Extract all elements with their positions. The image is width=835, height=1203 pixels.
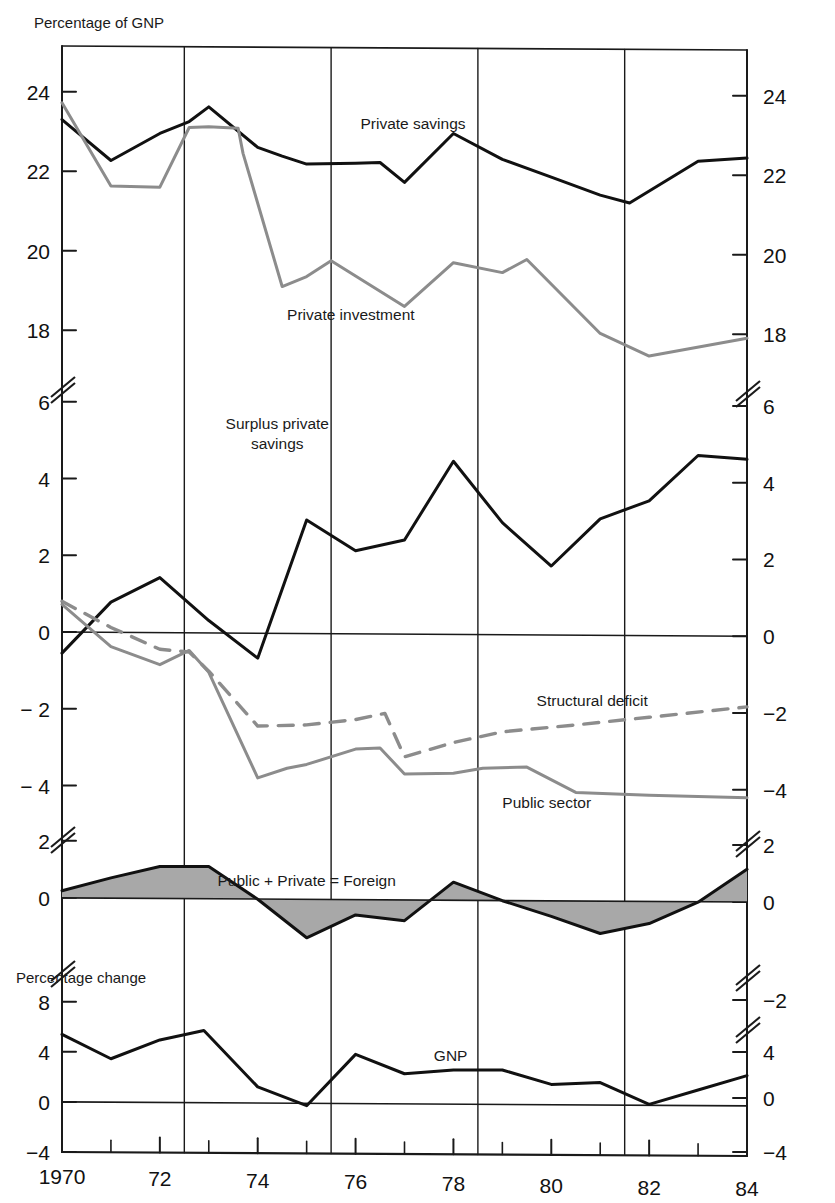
ytick-right-p1-20: 20 xyxy=(763,244,786,267)
ytick-right-p3-2: 2 xyxy=(763,834,775,857)
ytick-left-p1-22: 22 xyxy=(27,160,50,183)
ytick-right-p1-22: 22 xyxy=(763,164,786,187)
chart-svg: 2424222220201818Percentage of GNPPrivate… xyxy=(0,0,835,1203)
ytick-right-p1-24: 24 xyxy=(763,85,787,108)
ytick-right-p3-0: 0 xyxy=(763,891,775,914)
ytick-left-p3-0: 0 xyxy=(38,887,50,910)
label-foreign-balance: Public + Private = Foreign xyxy=(217,872,395,889)
series-surplus-private-savings xyxy=(62,456,747,659)
label-surplus-savings-line1: Surplus private xyxy=(226,415,329,432)
ytick-left-p2-0: 0 xyxy=(38,621,50,644)
ytick-right-p4-0: −2 xyxy=(763,989,787,1012)
ytick-left-p4-8: 8 xyxy=(38,991,50,1014)
label-surplus-savings-line2: savings xyxy=(251,435,304,452)
ytick-left-p4-0: 0 xyxy=(38,1091,50,1114)
xtick-label-1976: 76 xyxy=(344,1170,367,1193)
label-structural-deficit: Structural deficit xyxy=(537,692,649,709)
ytick-right-p2--2: −2 xyxy=(763,702,787,725)
zero-line-p2 xyxy=(62,632,747,636)
xtick-label-1984: 84 xyxy=(735,1177,759,1200)
ytick-right-p4-1: 4 xyxy=(763,1041,775,1064)
ytick-left-p4-4: 4 xyxy=(38,1041,50,1064)
ytick-left-p3-2: 2 xyxy=(38,830,50,853)
ytick-left-p2-6: 6 xyxy=(38,391,50,414)
ytick-right-p1-18: 18 xyxy=(763,323,786,346)
label-private-savings: Private savings xyxy=(360,115,465,132)
ytick-left-p1-20: 20 xyxy=(27,240,50,263)
ytick-left-p2-2: 2 xyxy=(38,544,50,567)
ytick-right-p2-4: 4 xyxy=(763,472,775,495)
ytick-left-p2-4: 4 xyxy=(38,468,50,491)
ytick-right-p2--4: −4 xyxy=(763,779,787,802)
ytick-left-p4--4: −4 xyxy=(26,1141,50,1164)
xtick-label-1970: 1970 xyxy=(39,1165,86,1188)
ytick-right-p4-3: −4 xyxy=(763,1141,787,1164)
ytick-left-p2--2: − 2 xyxy=(20,698,50,721)
label-public-sector: Public sector xyxy=(502,794,591,811)
panel4-axis-title: Percentage change xyxy=(16,969,146,986)
ytick-right-p4-2: 0 xyxy=(763,1087,775,1110)
label-gnp: GNP xyxy=(434,1047,468,1064)
xtick-label-1978: 78 xyxy=(442,1172,465,1195)
xtick-label-1982: 82 xyxy=(637,1176,660,1199)
ytick-right-p2-6: 6 xyxy=(763,395,775,418)
xtick-label-1980: 80 xyxy=(540,1174,563,1197)
ytick-left-p1-24: 24 xyxy=(27,81,51,104)
xtick-label-1972: 72 xyxy=(148,1167,171,1190)
ytick-left-p1-18: 18 xyxy=(27,319,50,342)
panel1-axis-title: Percentage of GNP xyxy=(34,14,164,31)
series-structural-deficit xyxy=(62,601,747,756)
xtick-label-1974: 74 xyxy=(246,1169,270,1192)
chart-figure: 2424222220201818Percentage of GNPPrivate… xyxy=(0,0,835,1203)
ytick-left-p2--4: − 4 xyxy=(20,775,50,798)
ytick-right-p2-0: 0 xyxy=(763,625,775,648)
ytick-right-p2-2: 2 xyxy=(763,548,775,571)
series-gnp xyxy=(62,1031,747,1106)
label-private-investment: Private investment xyxy=(287,306,415,323)
panel1-top-border xyxy=(62,46,747,50)
